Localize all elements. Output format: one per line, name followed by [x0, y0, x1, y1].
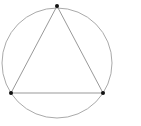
- diagram-canvas: [0, 0, 141, 126]
- vertex-point-top: [55, 4, 59, 8]
- vertex-points: [9, 4, 105, 95]
- vertex-point-bottom-right: [101, 91, 105, 95]
- circumscribed-circle: [2, 8, 112, 118]
- vertex-point-bottom-left: [9, 91, 13, 95]
- inscribed-triangle: [11, 6, 103, 93]
